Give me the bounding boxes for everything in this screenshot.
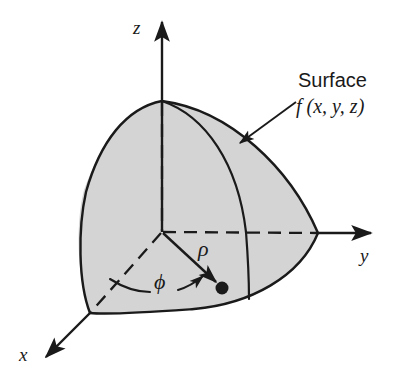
axis-label-z: z xyxy=(133,18,140,37)
axis-label-x: x xyxy=(19,345,27,364)
axis-label-y: y xyxy=(360,246,368,265)
spherical-coordinates-figure: z y x ρ ϕ Surface f (x, y, z) xyxy=(0,0,395,384)
azimuth-label-phi: ϕ xyxy=(154,271,165,293)
radius-label-rho: ρ xyxy=(198,238,209,260)
surface-callout-arrow xyxy=(240,102,296,143)
callout-line xyxy=(240,102,296,143)
surface-callout-label: Surface xyxy=(298,70,367,90)
surface-function-label: f (x, y, z) xyxy=(296,96,364,116)
figure-canvas xyxy=(0,0,395,384)
point-marker xyxy=(216,282,229,295)
x-axis xyxy=(46,312,91,357)
